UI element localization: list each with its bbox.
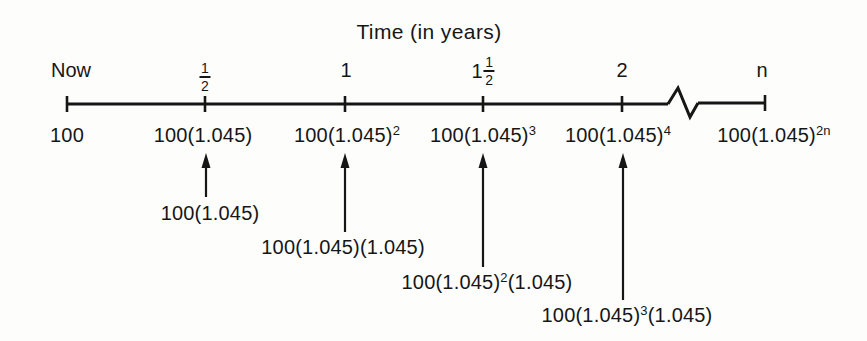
value-base: 100(1.045): [154, 124, 253, 146]
annotation-pre: 100(1.045): [161, 202, 260, 224]
value-at-1half: 100(1.045)3: [430, 124, 536, 147]
arrow-to-2: [619, 153, 628, 300]
one-half-fraction: 12: [200, 61, 211, 93]
fraction-numerator: 1: [485, 55, 493, 69]
tick-label-n: n: [756, 59, 767, 82]
annotation-post: (1.045): [508, 271, 573, 293]
fraction-denominator: 2: [485, 73, 493, 87]
value-base: 100(1.045): [717, 124, 816, 146]
value-at-1: 100(1.045)2: [294, 124, 400, 147]
value-at-2: 100(1.045)4: [565, 124, 671, 147]
arrow-head: [619, 153, 628, 168]
annotation-pre: 100(1.045): [402, 271, 501, 293]
value-base: 100: [50, 124, 84, 146]
fraction-numerator: 1: [201, 61, 209, 75]
value-at-n: 100(1.045)2n: [717, 124, 831, 147]
tick-label-1: 1: [340, 59, 351, 82]
value-superscript: 3: [529, 123, 536, 138]
axis-break-zigzag: [668, 88, 698, 117]
value-superscript: 2n: [816, 123, 831, 138]
value-base: 100(1.045): [430, 124, 529, 146]
value-superscript: 4: [664, 123, 671, 138]
annotation-post: (1.045): [648, 304, 713, 326]
annotation-pre: 100(1.045)(1.045): [261, 236, 425, 258]
arrow-to-1half: [479, 153, 488, 267]
tick-label-now: Now: [51, 59, 91, 82]
annotation-superscript: 3: [640, 303, 647, 318]
value-base: 100(1.045): [294, 124, 393, 146]
annotation-superscript: 2: [500, 270, 507, 285]
annotation-pre: 100(1.045): [542, 304, 641, 326]
arrow-to-1: [341, 153, 350, 232]
tick-label-half: 12: [200, 55, 211, 93]
annotation-half: 100(1.045): [161, 202, 260, 225]
value-at-half: 100(1.045): [154, 124, 253, 147]
annotation-1half: 100(1.045)2(1.045): [402, 271, 573, 294]
value-base: 100(1.045): [565, 124, 664, 146]
annotation-2: 100(1.045)3(1.045): [542, 304, 713, 327]
value-at-now: 100: [50, 124, 84, 147]
tick-label-1half: 112: [471, 55, 494, 87]
fraction-denominator: 2: [201, 79, 209, 93]
arrow-head: [479, 153, 488, 168]
arrow-head: [341, 153, 350, 168]
figure-title: Time (in years): [356, 20, 501, 44]
arrow-head: [202, 153, 211, 168]
annotation-1: 100(1.045)(1.045): [261, 236, 425, 259]
compound-interest-timeline-figure: Time (in years) Now 12 1 112 2 n 100 100…: [0, 0, 867, 341]
one-half-fraction: 12: [484, 55, 495, 87]
value-superscript: 2: [393, 123, 400, 138]
tick-label-2: 2: [616, 59, 627, 82]
mixed-number-integer: 1: [471, 60, 482, 83]
arrow-to-half: [202, 153, 211, 197]
